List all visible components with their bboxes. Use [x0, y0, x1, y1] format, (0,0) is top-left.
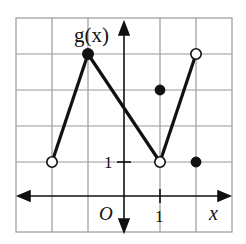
- x-axis-left-arrow-icon: [18, 191, 30, 201]
- closed-point-2-1: [191, 157, 200, 166]
- y-axis-up-arrow-icon: [119, 22, 129, 35]
- origin-label: O: [99, 203, 113, 224]
- open-point-1-1: [155, 157, 165, 167]
- y-tick-label: 1: [104, 153, 113, 172]
- segment-3: [160, 54, 196, 162]
- x-tick-label: 1: [155, 207, 164, 226]
- y-axis-label: g(x): [74, 23, 109, 47]
- segment-1: [52, 54, 88, 162]
- y-axis-down-arrow-icon: [119, 219, 129, 232]
- x-axis-label: x: [208, 202, 218, 224]
- closed-point-1-3: [155, 85, 164, 94]
- graph-of-g: g(x) x O 1 1: [0, 0, 246, 244]
- x-axis-right-arrow-icon: [218, 191, 230, 201]
- open-point-2-4: [191, 49, 201, 59]
- open-point-neg3-1: [47, 157, 57, 167]
- closed-point-neg1-4: [83, 49, 93, 59]
